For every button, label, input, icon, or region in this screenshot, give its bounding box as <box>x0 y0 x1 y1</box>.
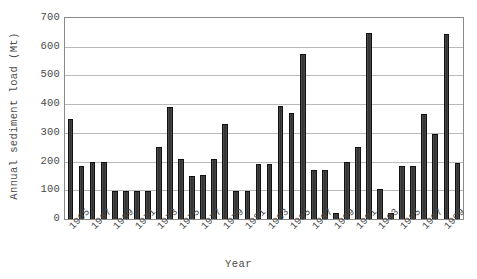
x-axis-title-text: Year <box>225 258 252 270</box>
y-tick-label-100: 100 <box>26 183 60 195</box>
bar-1985 <box>289 113 295 219</box>
bar-1969 <box>112 191 118 219</box>
bar-1980 <box>233 191 239 219</box>
bar-1971 <box>134 191 140 219</box>
bar-1990 <box>344 162 350 219</box>
bar-1984 <box>278 106 284 219</box>
bar-1966 <box>79 166 85 219</box>
plot-area <box>64 17 464 220</box>
bar-1994 <box>388 213 394 219</box>
bar-1967 <box>90 162 96 219</box>
bar-1987 <box>311 170 317 219</box>
bar-1981 <box>245 191 251 219</box>
bar-1972 <box>145 191 151 219</box>
y-tick-label-400: 400 <box>26 97 60 109</box>
sediment-load-bar-chart: Annual sediment load (Mt) 01002003004005… <box>0 0 477 279</box>
bar-1993 <box>377 189 383 219</box>
bar-1997 <box>421 114 427 219</box>
bar-1979 <box>222 124 228 219</box>
bars-layer <box>65 18 463 219</box>
bar-2000 <box>455 163 461 219</box>
bar-1999 <box>444 34 450 219</box>
y-tick-label-0: 0 <box>26 212 60 224</box>
bar-1974 <box>167 107 173 219</box>
bar-1986 <box>300 54 306 219</box>
bar-1978 <box>211 159 217 219</box>
bar-1992 <box>366 33 372 219</box>
bar-1998 <box>432 134 438 219</box>
bar-1988 <box>322 170 328 219</box>
bar-1989 <box>333 213 339 219</box>
bar-1965 <box>68 119 74 220</box>
bar-1977 <box>200 175 206 220</box>
y-tick-label-500: 500 <box>26 68 60 80</box>
x-axis-title: Year <box>0 258 477 270</box>
bar-1991 <box>355 147 361 219</box>
y-axis-title: Annual sediment load (Mt) <box>8 16 20 216</box>
bar-1982 <box>256 164 262 219</box>
bar-1968 <box>101 162 107 219</box>
y-tick-label-200: 200 <box>26 155 60 167</box>
bar-1976 <box>189 176 195 219</box>
y-tick-label-600: 600 <box>26 40 60 52</box>
y-axis-title-text: Annual sediment load (Mt) <box>8 32 20 200</box>
y-axis-tick-labels: 0100200300400500600700 <box>26 0 60 230</box>
bar-1983 <box>267 164 273 219</box>
bar-1975 <box>178 159 184 219</box>
bar-1996 <box>410 166 416 219</box>
bar-1973 <box>156 147 162 219</box>
bar-1970 <box>123 191 129 219</box>
y-tick-label-300: 300 <box>26 126 60 138</box>
bar-1995 <box>399 166 405 219</box>
y-tick-label-700: 700 <box>26 11 60 23</box>
